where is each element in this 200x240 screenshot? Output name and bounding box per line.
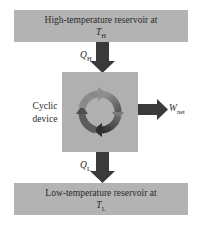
work-out-arrow [138, 99, 168, 120]
heat-in-arrow [90, 42, 115, 73]
device-label-line1: Cyclic [30, 100, 60, 113]
cycle-arrows-icon [62, 72, 138, 152]
heat-out-arrow [90, 152, 115, 183]
heat-out-label: QL [80, 160, 91, 172]
low-reservoir-label: Low-temperature reservoir at [14, 187, 188, 199]
work-out-label: Wnet [169, 103, 185, 115]
low-reservoir-temperature: TL [14, 199, 188, 215]
cyclic-device [62, 72, 138, 152]
low-temperature-reservoir: Low-temperature reservoir at TL [14, 183, 188, 215]
cyclic-device-label: Cyclic device [30, 100, 60, 126]
device-label-line2: device [30, 113, 60, 126]
heat-in-label: QH [80, 50, 92, 62]
